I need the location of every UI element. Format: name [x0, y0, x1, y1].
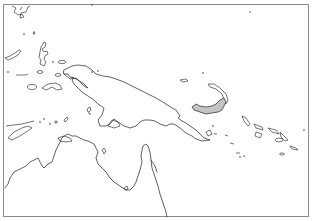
- island-small: [33, 32, 35, 35]
- island-solomon: [280, 132, 288, 141]
- island-groote: [102, 148, 106, 154]
- island-halmahera: [39, 42, 48, 66]
- islet: [243, 155, 245, 157]
- island-tanimbar: [64, 117, 68, 122]
- islet: [23, 33, 25, 35]
- island-chain-south: [6, 121, 34, 126]
- islet: [91, 4, 92, 5]
- islet: [49, 123, 51, 125]
- island-manus: [180, 79, 188, 82]
- island-dentrecasteaux: [206, 130, 212, 136]
- islet: [239, 156, 241, 158]
- island-melville: [58, 136, 72, 142]
- island-sula: [16, 74, 28, 75]
- island-new-britain-highlighted: [192, 98, 226, 114]
- island-solomon: [254, 124, 263, 130]
- island-small: [230, 143, 234, 144]
- island-small: [225, 135, 228, 136]
- islet: [7, 71, 9, 73]
- island-west-arm: [5, 50, 21, 60]
- island-solomon: [268, 128, 279, 134]
- islet: [91, 71, 93, 73]
- islet: [249, 11, 250, 12]
- islet: [97, 70, 99, 72]
- islet: [303, 129, 305, 131]
- island-solomon: [290, 146, 298, 150]
- island-seram: [42, 83, 62, 90]
- map-canvas: [0, 0, 314, 221]
- islet: [39, 121, 41, 123]
- islet: [212, 125, 214, 127]
- island-solomon: [255, 132, 262, 138]
- island-aru: [87, 107, 91, 115]
- island-small: [58, 60, 66, 63]
- island-top-left: [12, 6, 30, 18]
- island-small: [37, 71, 43, 74]
- island-small: [280, 153, 285, 155]
- island-wellesley: [124, 186, 128, 190]
- islet: [43, 118, 45, 120]
- island-solomon: [275, 138, 283, 142]
- island-buru: [28, 85, 37, 90]
- island-small: [55, 74, 61, 77]
- island-bougainville: [242, 116, 250, 126]
- islet: [202, 72, 204, 74]
- map-frame: [4, 5, 309, 217]
- new-guinea-coast: [64, 65, 210, 141]
- australia-north-coast: [5, 134, 167, 217]
- island-timor: [8, 126, 32, 140]
- islet: [52, 61, 54, 63]
- island-small: [55, 121, 58, 123]
